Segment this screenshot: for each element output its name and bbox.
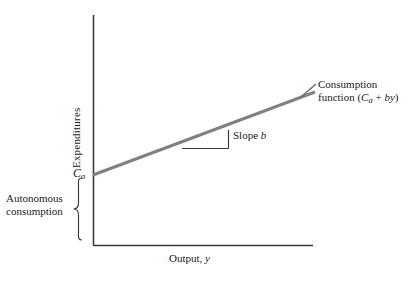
intercept-label: Ca — [73, 166, 85, 181]
chart-canvas — [0, 0, 420, 282]
autonomous-consumption-line2: consumption — [6, 205, 63, 218]
x-axis-label: Output, y — [169, 252, 210, 265]
autonomous-consumption-line1: Autonomous — [6, 192, 63, 205]
intercept-symbol: C — [73, 166, 81, 180]
consumption-function-label-line1: Consumption — [318, 78, 398, 91]
consumption-function-chart: Expenditures Output, y Ca Slope b Consum… — [0, 0, 420, 282]
cf-formula-close: ) — [395, 91, 399, 103]
slope-label-text: Slope — [233, 129, 261, 141]
autonomous-consumption-label: Autonomous consumption — [6, 192, 63, 218]
consumption-function-label: Consumption function (Ca + by) — [318, 78, 398, 105]
cf-formula-prefix: function ( — [318, 91, 361, 103]
x-axis-label-text: Output, — [169, 252, 205, 264]
consumption-function-label-line2: function (Ca + by) — [318, 91, 398, 105]
consumption-function-line — [93, 92, 315, 175]
autonomous-consumption-brace — [74, 178, 83, 240]
x-axis-label-variable: y — [205, 252, 210, 264]
slope-label: Slope b — [233, 129, 266, 142]
slope-label-variable: b — [261, 129, 267, 141]
intercept-subscript: a — [81, 171, 85, 181]
cf-formula-plus: + — [373, 91, 385, 103]
